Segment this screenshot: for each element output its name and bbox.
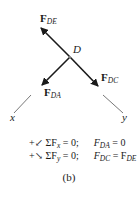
result-rhs-text: = F [113, 151, 127, 161]
result-lhs: FDA [94, 138, 110, 150]
result-subscript: DC [100, 155, 110, 163]
sum-subscript: y [57, 155, 60, 163]
result-subscript: DA [100, 142, 110, 150]
force-symbol: F [44, 86, 51, 98]
sum-term: ΣFy [46, 151, 61, 163]
result-rhs: = FDE [113, 151, 137, 163]
equals-zero: = 0; [63, 138, 79, 148]
force-subscript: DA [51, 91, 61, 100]
force-subscript: DC [108, 76, 118, 85]
force-label-fde: FDE [40, 13, 57, 26]
joint-d-point [69, 56, 71, 58]
force-symbol: F [101, 71, 108, 83]
sum-symbol: ΣF [46, 151, 57, 161]
force-arrow-fde [41, 28, 70, 57]
equals-zero: = 0; [63, 151, 79, 161]
force-subscript: DE [47, 17, 57, 26]
x-axis-label: x [10, 112, 15, 123]
figure-caption: (b) [0, 171, 138, 183]
joint-label-d: D [73, 44, 81, 55]
force-label-fdc: FDC [101, 72, 118, 85]
force-symbol: F [40, 12, 47, 24]
equation-x: +↙ ΣFx = 0; FDA = 0 [29, 138, 125, 150]
direction-arrow-icon: +↙ [29, 138, 43, 148]
force-label-fda: FDA [44, 87, 61, 100]
equation-y: +↘ ΣFy = 0; FDC = FDE [29, 151, 136, 163]
result-lhs: FDC [94, 151, 111, 163]
y-axis-line [103, 95, 123, 113]
x-axis-line [14, 95, 31, 113]
force-arrow-fdc [70, 57, 98, 86]
sum-symbol: ΣF [46, 138, 57, 148]
result-rhs: = 0 [112, 138, 125, 148]
y-axis-label: y [122, 112, 127, 123]
result-rhs-subscript: DE [126, 155, 136, 163]
sum-term: ΣFx [46, 138, 61, 150]
force-arrow-fda [42, 57, 70, 85]
sum-subscript: x [57, 142, 60, 150]
free-body-diagram [0, 0, 138, 197]
direction-arrow-icon: +↘ [29, 151, 43, 161]
